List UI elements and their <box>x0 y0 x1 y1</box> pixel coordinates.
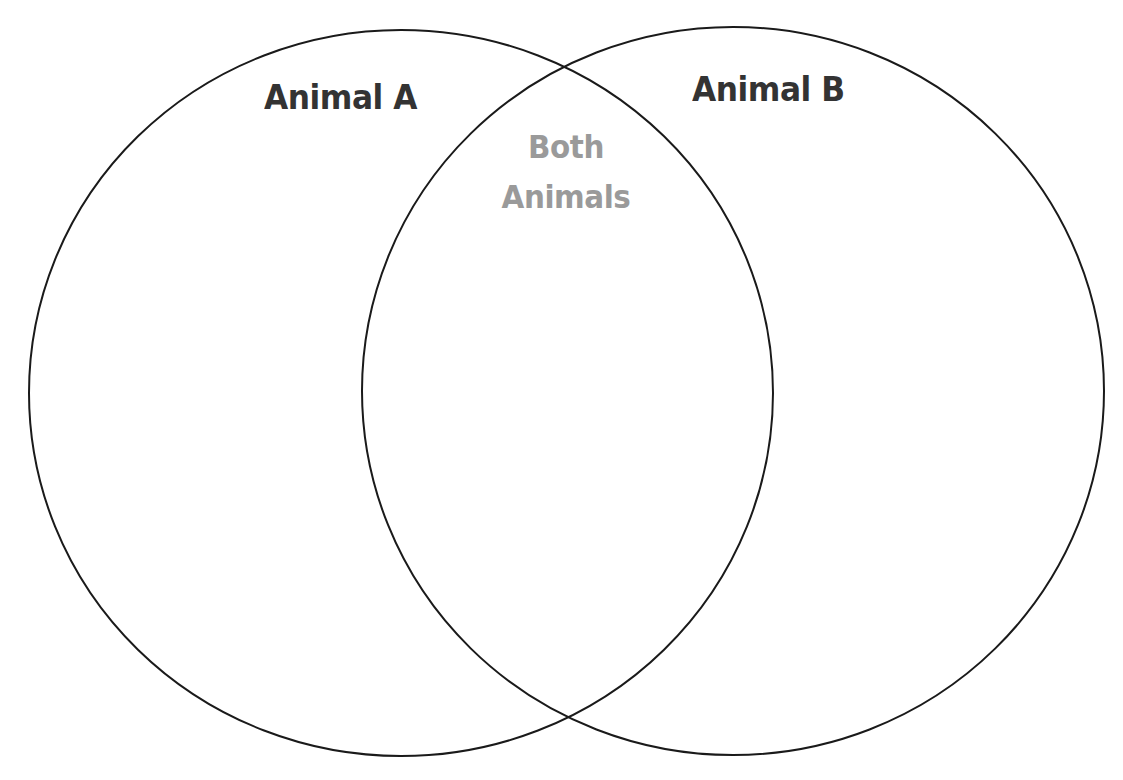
label-both-animals: Both Animals <box>466 122 666 222</box>
label-animal-b: Animal B <box>692 72 845 106</box>
venn-diagram <box>0 0 1123 780</box>
label-both-line2: Animals <box>474 172 658 222</box>
label-both-line1: Both <box>474 122 658 172</box>
label-animal-a: Animal A <box>264 80 417 114</box>
